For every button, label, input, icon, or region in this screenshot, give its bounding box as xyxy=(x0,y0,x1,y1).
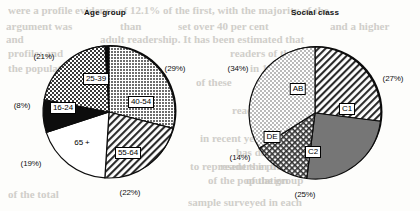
slice-label: DE xyxy=(264,131,281,143)
slice-label: 55-64 xyxy=(115,147,141,159)
pie-social-class xyxy=(210,0,420,211)
slice-label: 16-24 xyxy=(50,102,76,114)
slice-percent-label: (29%) xyxy=(165,64,186,73)
slice-percent-label: (25%) xyxy=(295,190,316,199)
slice-label: 40-54 xyxy=(128,96,154,108)
slice-label: 25-39 xyxy=(83,73,109,85)
slice-percent-label: (21%) xyxy=(34,52,55,61)
slice-percent-label: (14%) xyxy=(230,153,251,162)
slice-label: 65 + xyxy=(74,138,89,147)
chart-age-group: Age group 40-54(29%)55-64(22%)65 +(19%)1… xyxy=(0,0,210,211)
slice-percent-label: (22%) xyxy=(120,188,141,197)
slice-percent-label: (27%) xyxy=(383,74,404,83)
slice-label: AB xyxy=(290,83,306,95)
slice-percent-label: (8%) xyxy=(14,101,31,110)
slice-label: C1 xyxy=(339,103,355,115)
slice-label: C2 xyxy=(305,146,321,158)
slice-percent-label: (19%) xyxy=(21,159,42,168)
chart-social-class: Social class C1(27%)C2(25%)DE(14%)AB(34%… xyxy=(210,0,420,211)
slice-percent-label: (34%) xyxy=(228,64,249,73)
pie-age-group xyxy=(0,0,210,211)
